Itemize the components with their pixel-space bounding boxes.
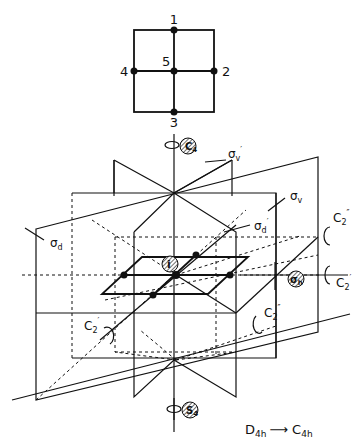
c2-prime-left-label: C2′	[84, 317, 99, 335]
sigma-v-prime-label: σv′	[228, 146, 242, 163]
sigma-d-label: σd	[50, 236, 63, 252]
c2-dprime-mid-label: C2″	[264, 304, 280, 322]
c2-prime-right-label: C2′	[336, 274, 351, 292]
point-label-4: 4	[120, 64, 128, 79]
c2-dprime-top-rotation-icon	[324, 227, 330, 245]
symmetry-diagram: 1 2 3 4 5	[0, 0, 364, 446]
c2-dprime-top-label: C2″	[333, 209, 349, 227]
sigma-d-marker	[25, 228, 44, 240]
point-label-3: 3	[170, 115, 178, 130]
point-label-1: 1	[170, 12, 178, 27]
point-label-5: 5	[162, 54, 170, 69]
square-grid	[131, 27, 218, 116]
sigma-d-prime-label: σd′	[254, 218, 269, 235]
inversion-label: i	[167, 258, 171, 271]
c2-dprime-mid-rotation-icon	[253, 316, 262, 333]
caption: D4h⟶C4h	[245, 422, 313, 439]
sigma-v-label: σv	[290, 189, 303, 205]
sigma-v-prime-marker	[205, 160, 226, 162]
point-label-2: 2	[222, 64, 230, 79]
